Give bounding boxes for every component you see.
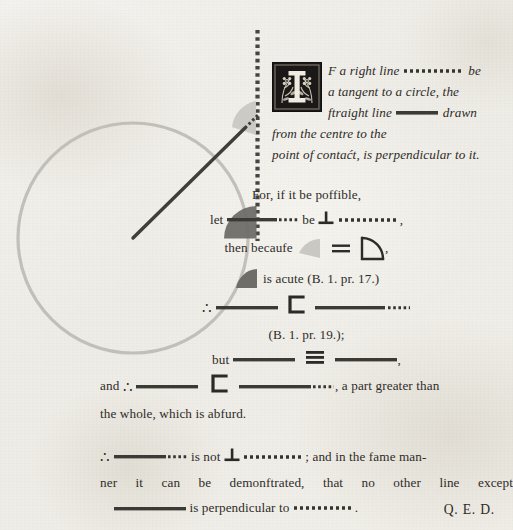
proof-line-10: ∴ is not ; and in the fame man-: [100, 444, 513, 470]
solid-segment-icon: [395, 108, 439, 117]
proof-text: is acute: [263, 271, 304, 286]
proof-text: is not: [191, 449, 221, 464]
proof-text: the whole, which is abfurd.: [100, 406, 246, 421]
therefore-symbol: ∴: [123, 375, 133, 400]
identical-symbol: [298, 348, 332, 373]
perpendicular-icon: [224, 445, 240, 470]
solid-then-dotted-segment-icon: [227, 215, 299, 224]
euclid-page: F a right line be a tangent to a circle,…: [0, 0, 513, 530]
qed-label: Q. E. D.: [0, 502, 495, 518]
proof-line-7: but ,: [100, 347, 513, 373]
proof-line-8: and ∴ , a part greater than: [100, 373, 513, 400]
proof-reference: (B. 1. pr. 17.): [307, 271, 379, 286]
proof-text: ,: [385, 240, 388, 255]
proof-spacer: [100, 426, 513, 444]
proof-line-3: then becaufe ,: [100, 233, 513, 264]
proof-text: ,: [400, 212, 403, 227]
less-than-bracket-icon: [281, 295, 311, 322]
therefore-symbol: ∴: [202, 296, 212, 321]
enunciation-text: drawn: [443, 105, 477, 120]
perpendicular-icon: [318, 207, 334, 232]
proof-text: and: [100, 378, 119, 393]
proof-line-11: ner it can be demonftrated, that no othe…: [100, 470, 513, 495]
proof-text: be: [302, 212, 315, 227]
acute-angle-dark-icon: [234, 268, 260, 292]
proof-line-1: For, if it be poffible,: [100, 182, 513, 207]
enunciation-paragraph: F a right line be a tangent to a circle,…: [272, 60, 513, 165]
less-than-bracket-icon: [202, 374, 236, 401]
proof-line-5: ∴: [100, 294, 513, 321]
proof-text: , a part greater than: [335, 378, 439, 393]
solid-then-dotted-segment-icon: [239, 382, 335, 391]
solid-then-dotted-segment-icon: [114, 452, 188, 461]
enunciation-text: ftraight line: [328, 105, 392, 120]
right-angle-outline-icon: [359, 236, 385, 262]
proof-line-9: the whole, which is abfurd.: [100, 401, 513, 426]
equals-symbol: [326, 234, 356, 264]
proof-text: ; and in the fame man-: [305, 449, 426, 464]
proof-reference: (B. 1. pr. 19.);: [269, 327, 345, 342]
solid-segment-icon: [335, 355, 397, 364]
solid-segment-icon: [233, 355, 295, 364]
enunciation-text: be: [468, 63, 481, 78]
floral-woodcut-initial-icon: [272, 62, 322, 112]
proof-text: then becaufe: [225, 240, 293, 255]
enunciation-line-5: point of contaćt, is perpendicular to it…: [272, 144, 513, 165]
proof-line-2: let be ,: [100, 207, 513, 233]
proof-text: let: [210, 212, 223, 227]
proof-text: ner it can be demonftrated, that no othe…: [100, 475, 513, 490]
acute-angle-light-icon: [296, 238, 322, 260]
dotted-segment-icon: [338, 216, 400, 224]
proof-line-4: is acute (B. 1. pr. 17.): [100, 264, 513, 294]
dotted-segment-icon: [243, 453, 305, 461]
proof-text: ,: [397, 352, 400, 367]
proof-text: but: [212, 352, 229, 367]
dotted-segment-icon: [403, 67, 465, 75]
proof-block: For, if it be poffible, let be: [100, 182, 513, 520]
enunciation-text: F a right line: [328, 63, 399, 78]
solid-segment-icon: [136, 382, 198, 391]
solid-then-dotted-segment-icon: [315, 303, 411, 312]
therefore-symbol: ∴: [100, 445, 110, 470]
proof-text: For, if it be poffible,: [252, 187, 361, 202]
proof-line-6: (B. 1. pr. 19.);: [100, 322, 513, 347]
solid-segment-icon: [216, 303, 278, 312]
enunciation-line-4: from the centre to the: [272, 123, 513, 144]
